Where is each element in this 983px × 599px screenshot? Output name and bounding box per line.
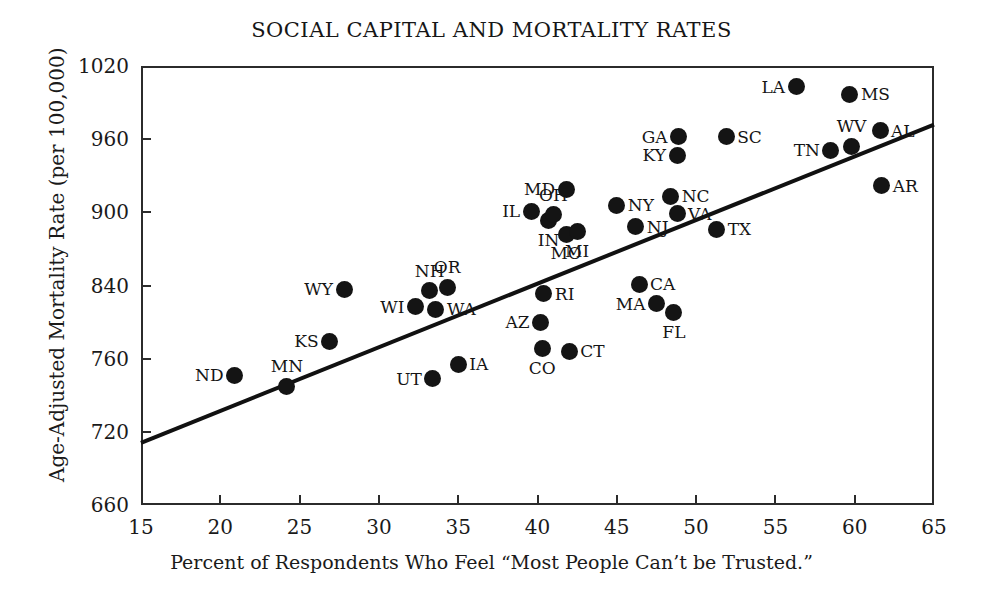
data-point-label: MN: [271, 358, 303, 375]
data-point-label: WA: [447, 301, 476, 318]
data-point-label: AL: [891, 122, 915, 139]
x-tick-label: 20: [190, 517, 250, 537]
data-point-label: KS: [294, 333, 318, 350]
y-tick-label: 1020: [59, 56, 129, 76]
y-tick-label: 840: [59, 276, 129, 296]
data-point: [569, 223, 586, 240]
data-point: [523, 203, 540, 220]
data-point: [669, 205, 686, 222]
data-point: [822, 142, 839, 159]
data-point-label: NJ: [647, 218, 669, 235]
data-point: [843, 138, 860, 155]
data-point: [841, 86, 858, 103]
data-point-label: WV: [837, 118, 867, 135]
data-point-label: KY: [643, 147, 666, 164]
data-point-label: TX: [728, 221, 751, 238]
x-tick-label: 35: [428, 517, 488, 537]
data-point: [669, 147, 686, 164]
data-point-label: CA: [650, 276, 675, 293]
data-point-label: MA: [616, 295, 646, 312]
y-tick-label: 660: [59, 495, 129, 515]
data-point-label: AZ: [506, 314, 530, 331]
data-point-label: ND: [195, 367, 224, 384]
data-point-label: WI: [380, 298, 404, 315]
data-point-label: CO: [529, 360, 556, 377]
data-point-label: CT: [580, 343, 604, 360]
data-point: [545, 206, 562, 223]
x-tick-label: 65: [904, 517, 964, 537]
data-point-label: GA: [642, 128, 668, 145]
y-tick-label: 960: [59, 129, 129, 149]
data-point: [788, 78, 805, 95]
data-point-label: OR: [434, 259, 461, 276]
data-point-label: VA: [688, 205, 711, 222]
data-point: [532, 314, 549, 331]
data-point: [439, 279, 456, 296]
chart-title: SOCIAL CAPITAL AND MORTALITY RATES: [0, 18, 983, 42]
data-point: [718, 128, 735, 145]
data-point-label: FL: [662, 324, 685, 341]
x-tick-label: 50: [666, 517, 726, 537]
data-point-label: UT: [396, 370, 422, 387]
y-tick-label: 760: [59, 349, 129, 369]
data-point: [321, 333, 338, 350]
data-point-label: LA: [761, 78, 785, 95]
y-axis-title: Age-Adjusted Mortality Rate (per 100,000…: [45, 52, 69, 482]
plot-canvas: [141, 66, 934, 505]
data-point: [872, 122, 889, 139]
data-point: [407, 298, 424, 315]
data-point-label: RI: [555, 285, 575, 302]
scatter-chart-figure: SOCIAL CAPITAL AND MORTALITY RATES Age-A…: [0, 0, 983, 599]
x-tick-label: 55: [745, 517, 805, 537]
data-point: [450, 356, 467, 373]
x-tick-label: 60: [825, 517, 885, 537]
data-point: [631, 276, 648, 293]
data-point-label: MI: [565, 243, 589, 260]
data-point-label: MS: [861, 86, 890, 103]
trendline: [141, 125, 934, 443]
data-point-label: AR: [893, 177, 918, 194]
x-tick-label: 15: [111, 517, 171, 537]
data-point: [278, 378, 295, 395]
data-point-label: IL: [502, 203, 520, 220]
data-point-label: TN: [794, 142, 820, 159]
x-axis-title: Percent of Respondents Who Feel “Most Pe…: [0, 551, 983, 573]
data-point: [608, 197, 625, 214]
data-point: [534, 340, 551, 357]
x-tick-label: 30: [349, 517, 409, 537]
x-tick-label: 45: [587, 517, 647, 537]
data-point: [708, 221, 725, 238]
y-tick-label: 900: [59, 202, 129, 222]
x-tick-label: 25: [270, 517, 330, 537]
data-point-label: SC: [737, 128, 762, 145]
data-point-label: IA: [469, 356, 488, 373]
data-point: [226, 367, 243, 384]
x-tick-label: 40: [508, 517, 568, 537]
y-tick-label: 720: [59, 422, 129, 442]
data-point: [561, 343, 578, 360]
data-point-label: OH: [539, 187, 568, 204]
data-point: [336, 281, 353, 298]
data-point-label: WY: [304, 281, 333, 298]
data-point-label: NY: [628, 197, 654, 214]
